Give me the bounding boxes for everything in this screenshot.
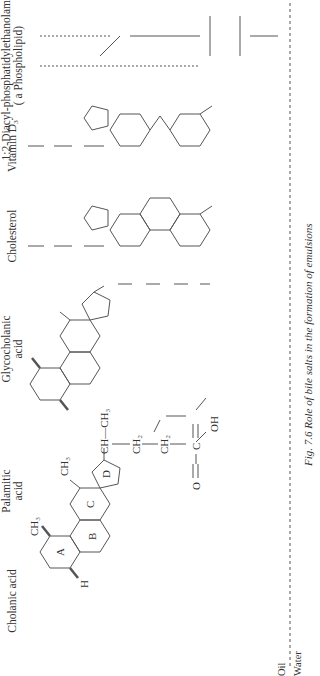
water-label: Water bbox=[292, 651, 303, 676]
structure-vitamin-d3 bbox=[28, 106, 212, 146]
group-text: CH₃ bbox=[58, 457, 70, 476]
group-text: O bbox=[190, 482, 202, 490]
ring-d-label: D bbox=[100, 470, 112, 478]
bile-salt-emulsion-figure: Cholanic acid Palamitic acid Glycocholan… bbox=[0, 0, 320, 676]
group-text: OH bbox=[208, 416, 220, 432]
figure-caption: Fig. 7.6 Role of bile salts in the forma… bbox=[302, 223, 314, 466]
group-text: CH₃ bbox=[28, 517, 40, 536]
ring-a-label: A bbox=[54, 548, 66, 556]
structure-cholesterol bbox=[28, 198, 212, 246]
cholanic-acid-atoms: A B C D CH₃ CH₃ H CH—CH₃ CH₂ CH₂ C O OH bbox=[28, 408, 220, 588]
figure-page: Cholanic acid Palamitic acid Glycocholan… bbox=[0, 0, 320, 676]
structure-cholanic-acid bbox=[40, 432, 206, 578]
structures-drawing: A B C D CH₃ CH₃ H CH—CH₃ CH₂ CH₂ C O OH bbox=[0, 0, 320, 676]
oil-label: Oil bbox=[276, 663, 287, 676]
structure-palmitic-acid bbox=[154, 398, 206, 438]
ring-c-label: C bbox=[84, 501, 96, 508]
group-text: CH₂ bbox=[130, 435, 142, 454]
ring-b-label: B bbox=[86, 533, 98, 540]
group-text: CH—CH₃ bbox=[98, 408, 110, 454]
structure-glycocholanic-acid bbox=[30, 284, 210, 410]
group-text: H bbox=[78, 580, 90, 588]
group-text: CH₂ bbox=[158, 435, 170, 454]
group-text: C bbox=[190, 443, 202, 450]
structure-phospholipid bbox=[40, 16, 278, 66]
